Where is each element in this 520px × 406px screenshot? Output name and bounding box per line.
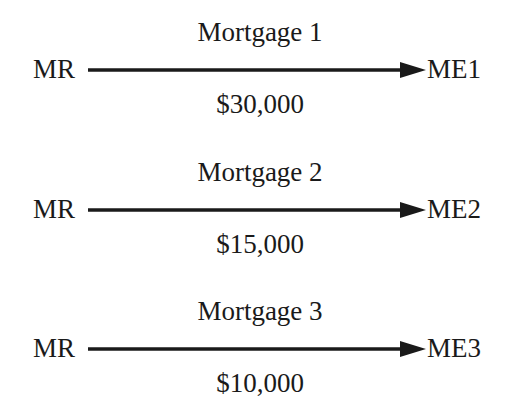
edge-title: Mortgage 3 bbox=[0, 296, 520, 326]
edge-title: Mortgage 2 bbox=[0, 157, 520, 187]
target-node: ME3 bbox=[427, 333, 481, 363]
mortgage-edge-2: Mortgage 2 MR ME2 $15,000 bbox=[0, 157, 520, 277]
target-node: ME1 bbox=[427, 54, 481, 84]
target-node: ME2 bbox=[427, 194, 481, 224]
source-node: MR bbox=[33, 54, 75, 84]
arrow-right-icon bbox=[88, 62, 428, 78]
arrow-right-icon bbox=[88, 202, 428, 218]
mortgage-edge-1: Mortgage 1 MR ME1 $30,000 bbox=[0, 17, 520, 137]
edge-amount: $30,000 bbox=[0, 89, 520, 119]
source-node: MR bbox=[33, 194, 75, 224]
mortgage-edge-3: Mortgage 3 MR ME3 $10,000 bbox=[0, 296, 520, 406]
source-node: MR bbox=[33, 333, 75, 363]
edge-amount: $10,000 bbox=[0, 368, 520, 398]
edge-amount: $15,000 bbox=[0, 229, 520, 259]
arrow-right-icon bbox=[88, 341, 428, 357]
edge-title: Mortgage 1 bbox=[0, 17, 520, 47]
